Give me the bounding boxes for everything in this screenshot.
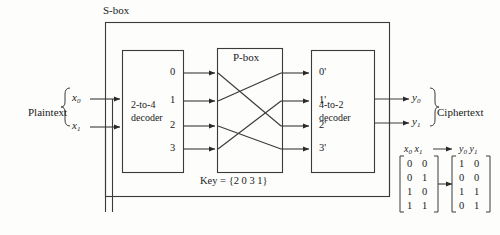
decoder-2to4-label-line1: 2-to-4	[131, 100, 155, 110]
truth-table-input-cell: 1	[422, 200, 427, 211]
truth-table-output-cell: 1	[459, 186, 464, 197]
truth-table-output-cell: 0	[474, 158, 479, 169]
key-label: Key = {2 0 3 1}	[200, 176, 268, 187]
pbox-box	[218, 49, 283, 173]
truth-table-input-cell: 0	[407, 172, 412, 183]
truth-table-input-cell: 0	[422, 158, 427, 169]
output-label-y1: y1	[412, 116, 420, 127]
truth-table-output-cell: 1	[474, 200, 479, 211]
truth-table-input-cell: 1	[407, 186, 412, 197]
sbox-label: S-box	[103, 5, 129, 16]
output-label-y0: y0	[412, 92, 420, 103]
tt-left-bracket-open	[400, 156, 404, 212]
truth-table-input-cell: 0	[407, 158, 412, 169]
input-label-x1: x1	[72, 120, 80, 131]
perm-wire-0	[218, 73, 281, 126]
decoder-2to4-out-0: 0	[170, 67, 175, 78]
decoder-4to2-in-1: 1'	[319, 95, 326, 106]
truth-table-input-header: x0 x1	[404, 144, 422, 154]
truth-table-input-cell: 1	[407, 200, 412, 211]
truth-table-output-cell: 0	[459, 200, 464, 211]
decoder-4to2-in-0: 0'	[319, 67, 326, 78]
truth-table-input-cell: 0	[422, 186, 427, 197]
input-label-x0: x0	[72, 92, 80, 103]
decoder-4to2-in-3: 3'	[319, 143, 326, 154]
decoder-2to4-out-1: 1	[170, 95, 175, 106]
perm-wire-2	[218, 126, 281, 149]
pbox-label: P-box	[233, 52, 259, 63]
truth-table-output-cell: 1	[459, 158, 464, 169]
tt-left-bracket-close	[434, 156, 438, 212]
decoder-2to4-out-2: 2	[170, 120, 175, 131]
decoder-4to2-in-2: 2'	[319, 120, 326, 131]
perm-wire-1	[218, 73, 281, 101]
truth-table-input-cell: 1	[422, 172, 427, 183]
truth-table-output-cell: 0	[474, 172, 479, 183]
truth-table-output-cell: 1	[474, 186, 479, 197]
spn-diagram: S-box P-box Key = {2 0 3 1} Plaintext Ci…	[0, 0, 500, 235]
decoder-2to4-label-line2: decoder	[131, 113, 163, 123]
tt-right-bracket-close	[486, 156, 490, 212]
truth-table-output-cell: 0	[459, 172, 464, 183]
ciphertext-label: Ciphertext	[437, 107, 483, 118]
tt-right-bracket-open	[452, 156, 456, 212]
plaintext-label: Plaintext	[28, 107, 67, 118]
perm-wire-3	[218, 101, 281, 149]
decoder-2to4-out-3: 3	[170, 143, 175, 154]
truth-table-output-header: y0 y1	[459, 144, 477, 154]
